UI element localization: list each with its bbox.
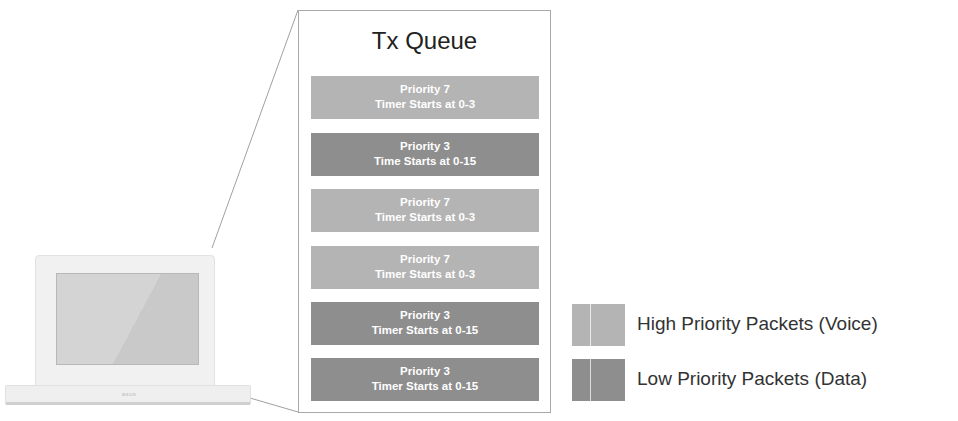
laptop-lid [35, 255, 215, 386]
packet-priority: Priority 3 [311, 364, 539, 379]
packet-timer: Timer Starts at 0-3 [311, 267, 539, 282]
packet-priority: Priority 7 [311, 252, 539, 267]
legend-label-low-priority: Low Priority Packets (Data) [637, 368, 867, 390]
tx-queue-box: Tx Queue Priority 7 Timer Starts at 0-3 … [298, 10, 551, 413]
queue-title: Tx Queue [299, 27, 550, 55]
packet-item: Priority 7 Timer Starts at 0-3 [311, 246, 539, 289]
packet-priority: Priority 7 [311, 195, 539, 210]
laptop-screen [56, 273, 199, 365]
packet-item: Priority 3 Timer Starts at 0-15 [311, 358, 539, 401]
legend-swatch-high-priority [572, 304, 625, 346]
packet-timer: Timer Starts at 0-3 [311, 210, 539, 225]
swatch-divider [590, 304, 591, 346]
legend-label-high-priority: High Priority Packets (Voice) [637, 313, 878, 335]
packet-timer: Timer Starts at 0-15 [311, 379, 539, 394]
packet-item: Priority 7 Timer Starts at 0-3 [311, 189, 539, 232]
connector-line-top [212, 10, 298, 248]
packet-priority: Priority 3 [311, 139, 539, 154]
connector-line-bottom [250, 398, 298, 412]
packet-item: Priority 3 Time Starts at 0-15 [311, 133, 539, 176]
packet-item: Priority 3 Timer Starts at 0-15 [311, 302, 539, 345]
packet-timer: Timer Starts at 0-15 [311, 323, 539, 338]
laptop-base: asus [5, 385, 251, 405]
packet-timer: Time Starts at 0-15 [311, 154, 539, 169]
legend-swatch-low-priority [572, 359, 625, 401]
packet-timer: Timer Starts at 0-3 [311, 97, 539, 112]
packet-priority: Priority 3 [311, 308, 539, 323]
swatch-divider [590, 359, 591, 401]
packet-priority: Priority 7 [311, 82, 539, 97]
laptop-logo: asus [117, 390, 141, 398]
packet-item: Priority 7 Timer Starts at 0-3 [311, 76, 539, 119]
